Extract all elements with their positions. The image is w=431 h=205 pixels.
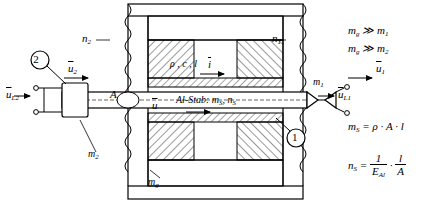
figure-root: n2 n1 ρ , c , l i m1 u2 uL2 uL1 u1 u A A… xyxy=(0,0,431,205)
equation-ns: nS = 1EAl · lA xyxy=(348,152,406,180)
label-al-stab: Al-Stab: mS, nS xyxy=(176,94,236,107)
fraction-l-over-a: lA xyxy=(395,152,406,177)
label-n2: n2 xyxy=(82,32,91,46)
equation-mg-gg-m2: mg ≫ m2 xyxy=(348,42,388,56)
label-rho-c-l: ρ , c , l xyxy=(170,58,197,69)
callout-label-2: 2 xyxy=(33,53,39,65)
label-m1: m1 xyxy=(313,76,324,89)
label-uL1: uL1 xyxy=(338,88,351,102)
label-u1: u1 xyxy=(376,62,385,76)
equation-mg-gg-m1: mg ≫ m1 xyxy=(348,24,388,38)
label-u-mid: u xyxy=(152,99,158,111)
label-n1: n1 xyxy=(272,32,281,46)
label-area-A: A xyxy=(110,88,117,100)
fraction-one-over-eal: 1EAl xyxy=(370,152,387,180)
callout-label-1: 1 xyxy=(292,131,298,143)
label-u2: u2 xyxy=(68,62,77,76)
label-uL2: uL2 xyxy=(6,88,19,102)
label-m2: m2 xyxy=(88,148,99,161)
equation-ms: mS = ρ · A · l xyxy=(348,120,404,134)
cross-section-marker xyxy=(117,92,139,108)
label-current-i: i xyxy=(208,58,211,70)
label-mg: mg xyxy=(148,176,159,189)
left-transducer-block xyxy=(34,83,88,117)
